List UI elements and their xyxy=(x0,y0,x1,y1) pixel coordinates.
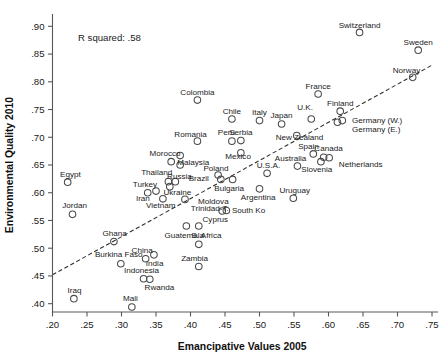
point-marker xyxy=(256,117,263,124)
x-tick-label: .55 xyxy=(287,319,300,330)
point-marker xyxy=(64,179,71,186)
point-marker xyxy=(229,138,236,145)
point-label: Jordan xyxy=(62,201,87,210)
point-label: Cyprus xyxy=(203,215,229,224)
point-label: Sweden xyxy=(404,38,433,47)
point-label: Germany (E.) xyxy=(352,125,401,134)
point-label: U.K. xyxy=(297,103,313,112)
point-marker xyxy=(71,295,78,302)
point-label: Egypt xyxy=(60,170,81,179)
data-point: Cyprus xyxy=(195,215,228,229)
data-point: Rwanda xyxy=(145,276,175,292)
point-label: Canada xyxy=(314,144,343,153)
point-marker xyxy=(290,195,297,202)
point-marker xyxy=(256,186,263,193)
point-label: Germany (W.) xyxy=(352,116,403,125)
data-point: Chile xyxy=(223,107,242,123)
point-marker xyxy=(194,97,201,104)
point-label: Argentina xyxy=(241,193,276,202)
data-point: South Ko xyxy=(223,206,266,215)
point-label: Indonesia xyxy=(124,266,160,275)
point-marker xyxy=(415,47,422,54)
x-tick-label: .30 xyxy=(115,319,128,330)
data-point: U.K. xyxy=(297,103,314,122)
point-marker xyxy=(111,238,118,245)
point-label: Slovenia xyxy=(301,165,333,174)
point-label: Chile xyxy=(223,107,242,116)
data-point: France xyxy=(306,82,332,98)
point-label: Finland xyxy=(327,99,354,108)
data-point: Jordan xyxy=(62,201,87,217)
point-marker xyxy=(229,116,236,123)
point-label: Mali xyxy=(123,294,138,303)
point-label: Morocco xyxy=(149,149,181,158)
trend-line xyxy=(53,65,433,275)
data-point: Mexico xyxy=(225,149,251,160)
r-squared-annotation: R squared: .58 xyxy=(78,32,141,43)
plot-canvas: SwitzerlandSwedenNorwayFranceColombiaFin… xyxy=(0,0,443,357)
data-point: Argentina xyxy=(241,186,276,203)
data-point: New Zealand xyxy=(276,132,324,142)
point-label: Vietnam xyxy=(146,201,176,210)
point-label: Ukraine xyxy=(163,188,191,197)
point-label: Netherlands xyxy=(339,160,383,169)
point-label: France xyxy=(306,82,332,91)
data-point: Canada xyxy=(314,144,343,161)
point-label: Trinidad-T. xyxy=(191,204,229,213)
data-point: Switzerland xyxy=(339,21,381,36)
data-point: Indonesia xyxy=(124,266,160,282)
point-label: Colombia xyxy=(180,88,215,97)
data-point: Colombia xyxy=(180,88,215,104)
data-point: Italy xyxy=(252,108,268,124)
point-marker xyxy=(129,304,136,311)
point-label: New Zealand xyxy=(276,133,324,142)
data-point: Mali xyxy=(123,294,138,310)
x-tick-label: .20 xyxy=(46,319,59,330)
point-label: Uruguay xyxy=(279,186,311,195)
y-axis-title: Environmental Quality 2010 xyxy=(4,97,15,234)
x-tick-label: .65 xyxy=(356,319,369,330)
data-points-layer: SwitzerlandSwedenNorwayFranceColombiaFin… xyxy=(60,21,433,310)
y-tick-label: .70 xyxy=(31,132,44,143)
data-point: S. Africa xyxy=(191,231,222,248)
point-label: Rwanda xyxy=(145,283,175,292)
y-tick-label: .80 xyxy=(31,76,44,87)
axes-layer: .40.45.50.55.60.65.70.75.80.85.90.20.25.… xyxy=(31,14,439,330)
point-label: Zambia xyxy=(181,254,208,263)
point-marker xyxy=(195,263,202,270)
point-label: Japan xyxy=(271,111,293,120)
point-marker xyxy=(140,275,147,282)
x-tick-label: .45 xyxy=(218,319,231,330)
data-point: Iraq xyxy=(68,286,82,302)
point-marker xyxy=(337,108,344,115)
y-tick-label: .90 xyxy=(31,21,44,32)
point-label: U.S.A. xyxy=(257,161,280,170)
y-tick-label: .50 xyxy=(31,243,44,254)
point-label: Peru xyxy=(218,128,235,137)
point-marker xyxy=(229,176,236,183)
data-point: Finland xyxy=(327,99,354,114)
point-label: Norway xyxy=(393,66,421,75)
data-point: Netherlands xyxy=(326,154,383,169)
x-tick-label: .40 xyxy=(184,319,197,330)
point-label: Russia xyxy=(167,172,192,181)
point-marker xyxy=(315,91,322,98)
data-point: Uruguay xyxy=(279,186,311,202)
point-marker xyxy=(238,137,245,144)
point-marker xyxy=(278,121,285,128)
x-tick-label: .70 xyxy=(391,319,404,330)
data-point: Burkina Faso xyxy=(95,250,143,267)
data-point xyxy=(168,158,175,165)
data-point: Zambia xyxy=(181,254,208,270)
point-marker xyxy=(195,223,202,230)
x-axis-title: Emancipative Values 2005 xyxy=(178,341,307,352)
data-point: Germany (W.) xyxy=(339,116,403,125)
y-tick-label: .55 xyxy=(31,215,44,226)
point-label: Poland xyxy=(203,164,228,173)
annotation-layer: R squared: .58 xyxy=(78,32,141,43)
data-point: Romania xyxy=(174,130,207,144)
point-marker xyxy=(308,116,315,123)
regression-trend-line xyxy=(53,65,433,275)
point-label: S. Africa xyxy=(191,231,222,240)
point-label: Burkina Faso xyxy=(95,250,143,259)
